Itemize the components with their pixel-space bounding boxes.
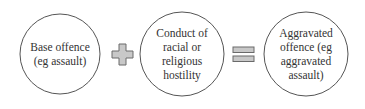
node-label-line: Aggravated (279, 26, 333, 40)
node-label-line: offence (eg (279, 40, 333, 54)
node-label-line: hostility (156, 68, 207, 82)
node-label-line: racial or (156, 40, 207, 54)
node-label-conduct: Conduct of racial or religious hostility (142, 20, 222, 88)
plus-icon (112, 44, 133, 65)
node-label-line: Conduct of (156, 26, 207, 40)
node-label-base: Base offence (eg assault) (22, 20, 98, 88)
node-label-line: Base offence (30, 40, 90, 54)
node-label-aggravated: Aggravated offence (eg aggravated assaul… (266, 20, 346, 88)
node-label-line: (eg assault) (30, 54, 90, 68)
node-label-line: aggravated (279, 54, 333, 68)
equals-icon (233, 47, 254, 62)
node-label-line: assault) (279, 68, 333, 82)
node-label-line: religious (156, 54, 207, 68)
